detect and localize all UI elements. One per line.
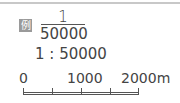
scale-tick: [52, 88, 53, 95]
scale-label-1000: 1000: [67, 71, 103, 85]
scale-label-2000: 2000m: [121, 71, 170, 85]
scale-tick: [138, 88, 139, 95]
scale-bar: [23, 88, 139, 95]
scale-tick: [81, 88, 82, 95]
scale-ratio: 1 : 50000: [35, 46, 107, 62]
fraction-denominator: 50000: [40, 26, 86, 42]
legend-badge: 例: [19, 19, 32, 32]
scale-fraction: 1 50000: [40, 10, 86, 42]
scale-label-0: 0: [19, 71, 28, 85]
top-border: [0, 2, 180, 4]
scale-tick: [23, 88, 24, 95]
scale-tick: [110, 88, 111, 95]
fraction-numerator: 1: [40, 10, 86, 24]
